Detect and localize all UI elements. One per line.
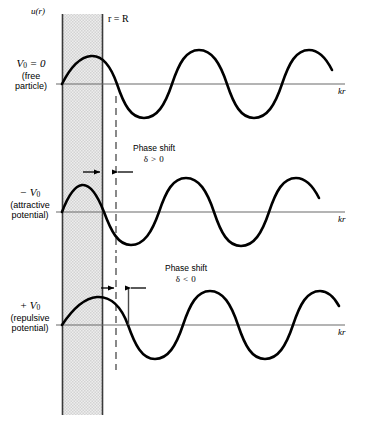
r-equals-R-label: r = R — [108, 13, 129, 25]
u-of-r-axis-label: u(r) — [31, 6, 45, 16]
phase-shift-annotation-negative: Phase shift δ < 0 — [155, 264, 217, 284]
phase-shift-annotation-positive: Phase shift δ > 0 — [123, 144, 185, 164]
panel2-descriptor-line2: potential) — [1, 210, 59, 220]
panel3-phase-shift-label: Phase shift — [155, 264, 217, 274]
panel2-subscript: 0 — [37, 190, 41, 199]
panel2-descriptor-line1: (attractive — [1, 200, 59, 210]
panel2-phase-shift-label: Phase shift — [123, 144, 185, 154]
panel-label-repulsive-potential: + V0 (repulsive potential) — [1, 299, 59, 334]
scattering-phase-shift-figure: u(r) r = R V0 = 0 (free particle) kr − V… — [0, 0, 365, 424]
panel-label-attractive-potential: − V0 (attractive potential) — [1, 186, 59, 221]
panel2-phase-shift-condition: δ > 0 — [123, 154, 185, 164]
panel1-equals: = 0 — [27, 57, 45, 69]
panel1-descriptor-line1: (free — [4, 71, 58, 81]
panel1-descriptor-line2: particle) — [4, 81, 58, 91]
panel3-descriptor-line1: (repulsive — [1, 313, 59, 323]
panel-label-free-particle: V0 = 0 (free particle) — [4, 57, 58, 92]
panel3-subscript: 0 — [37, 303, 41, 312]
panel2-symbol-V: − V0 — [20, 186, 41, 198]
panel3-phase-shift-condition: δ < 0 — [155, 274, 217, 284]
panel1-kr-label: kr — [338, 86, 346, 96]
panel3-symbol-V: + V0 — [20, 299, 41, 311]
panel3-kr-label: kr — [338, 327, 346, 337]
panel2-kr-label: kr — [338, 214, 346, 224]
panel1-symbol-V: V0 — [17, 57, 27, 69]
panel3-descriptor-line2: potential) — [1, 323, 59, 333]
